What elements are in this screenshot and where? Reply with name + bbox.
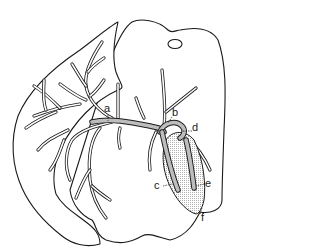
label-b: b xyxy=(172,107,178,118)
label-d: d xyxy=(192,122,198,133)
ellipse-mark xyxy=(168,40,182,49)
label-f: f xyxy=(201,212,204,223)
label-c: c xyxy=(154,180,160,191)
label-e: e xyxy=(205,178,211,189)
label-a: a xyxy=(104,103,110,114)
